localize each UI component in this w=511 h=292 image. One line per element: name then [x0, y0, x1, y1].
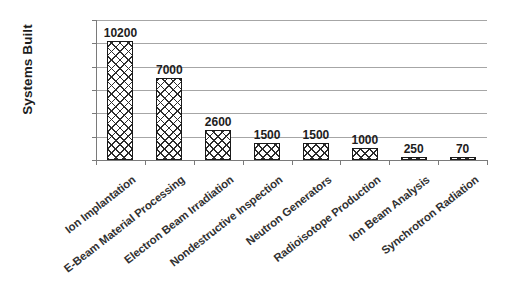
- x-axis-label-7: Synchrotron Radiation: [315, 173, 480, 292]
- x-tick-mark-1: [145, 160, 146, 165]
- x-tick-mark-2: [194, 160, 195, 165]
- bar-4: [303, 143, 329, 161]
- x-tick-mark-7: [438, 160, 439, 165]
- y-tick-mark-4000: [92, 113, 97, 114]
- x-tick-mark-4: [292, 160, 293, 165]
- x-tick-mark-5: [340, 160, 341, 165]
- plot-area: 020004000600080001000012000 102007000260…: [96, 20, 487, 160]
- x-tick-mark-0: [96, 160, 97, 165]
- y-tick-mark-6000: [92, 90, 97, 91]
- bar-value-label-7: 70: [433, 142, 493, 156]
- bar-chart-figure: Systems Built 02000400060008000100001200…: [0, 0, 511, 292]
- x-tick-mark-8: [487, 160, 488, 165]
- bar-7: [450, 157, 476, 160]
- x-tick-mark-3: [243, 160, 244, 165]
- bar-3: [254, 143, 280, 161]
- gridline-4000: [96, 113, 487, 114]
- y-tick-mark-8000: [92, 67, 97, 68]
- x-tick-mark-6: [389, 160, 390, 165]
- bar-2: [205, 130, 231, 160]
- y-tick-mark-2000: [92, 137, 97, 138]
- bar-value-label-1: 7000: [139, 63, 199, 77]
- y-tick-mark-12000: [92, 20, 97, 21]
- y-tick-mark-10000: [92, 43, 97, 44]
- gridline-6000: [96, 90, 487, 91]
- y-axis-title: Systems Built: [20, 10, 35, 130]
- bar-1: [156, 78, 182, 160]
- bar-5: [352, 148, 378, 160]
- bar-6: [401, 157, 427, 160]
- bar-0: [107, 41, 133, 160]
- gridline-12000: [96, 20, 487, 21]
- gridline-10000: [96, 43, 487, 44]
- bar-value-label-0: 10200: [90, 26, 150, 40]
